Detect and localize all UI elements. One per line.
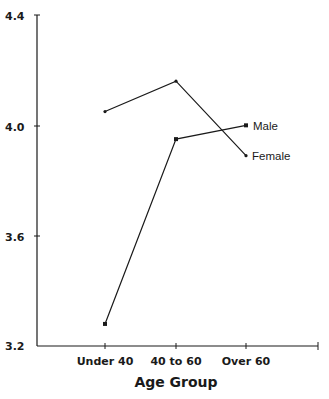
series-label-male: Male xyxy=(253,120,278,132)
y-tick-label: 4.4 xyxy=(5,10,25,23)
y-tick-label: 4.0 xyxy=(5,121,25,134)
data-point-marker xyxy=(174,137,178,141)
data-point-marker xyxy=(103,110,106,113)
x-axis-title: Age Group xyxy=(134,374,217,390)
line-chart: 4.4 4.0 3.6 3.2 Under 40 40 to 60 Over 6… xyxy=(0,0,329,399)
data-point-marker xyxy=(244,154,247,157)
data-point-marker xyxy=(244,123,248,127)
x-tick-label: 40 to 60 xyxy=(150,355,201,368)
data-point-marker xyxy=(174,80,177,83)
data-point-marker xyxy=(103,322,107,326)
x-tick-label: Under 40 xyxy=(77,355,134,368)
y-tick-label: 3.2 xyxy=(5,340,25,353)
y-tick-label: 3.6 xyxy=(5,231,25,244)
x-tick-label: Over 60 xyxy=(222,355,271,368)
series-label-female: Female xyxy=(252,150,290,162)
y-ticks: 4.4 4.0 3.6 3.2 xyxy=(5,10,40,353)
